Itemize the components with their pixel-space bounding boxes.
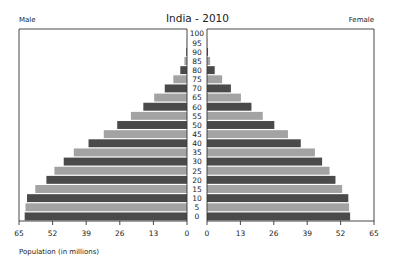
x-tick-label: 65	[14, 229, 24, 238]
male-bar-20	[46, 176, 187, 184]
female-bar-40	[207, 139, 301, 147]
age-tick-label: 45	[192, 130, 202, 139]
female-bar-15	[207, 185, 342, 193]
x-tick-label: 26	[115, 229, 125, 238]
female-bar-30	[207, 158, 322, 166]
female-bar-80	[207, 66, 215, 74]
x-tick-label: 52	[336, 229, 346, 238]
female-bar-35	[207, 148, 315, 156]
female-bar-55	[207, 112, 263, 120]
age-tick-label: 75	[192, 75, 202, 84]
age-tick-label: 30	[192, 157, 202, 166]
x-tick-label: 26	[269, 229, 279, 238]
male-bar-55	[131, 112, 187, 120]
female-bar-45	[207, 130, 288, 138]
female-bar-20	[207, 176, 335, 184]
age-labels: 0510152025303540455055606570758085909510…	[190, 29, 205, 221]
age-tick-label: 55	[192, 112, 202, 121]
age-tick-label: 95	[192, 39, 202, 48]
x-tick-label: 52	[48, 229, 58, 238]
female-bar-70	[207, 84, 231, 92]
age-tick-label: 90	[192, 48, 202, 57]
age-tick-label: 25	[192, 167, 202, 176]
male-bar-75	[173, 75, 187, 83]
male-bar-0	[25, 212, 187, 220]
age-tick-label: 20	[192, 176, 202, 185]
age-tick-label: 60	[192, 103, 202, 112]
male-bar-70	[165, 84, 187, 92]
x-tick-label: 13	[236, 229, 246, 238]
male-bar-35	[74, 148, 187, 156]
x-tick-label: 0	[185, 229, 190, 238]
male-bar-80	[180, 66, 187, 74]
age-tick-label: 50	[192, 121, 202, 130]
male-bars	[25, 39, 187, 221]
male-bar-40	[89, 139, 187, 147]
age-tick-label: 35	[192, 148, 202, 157]
female-bar-5	[207, 203, 349, 211]
male-bar-50	[117, 121, 187, 129]
male-bar-45	[104, 130, 187, 138]
male-bar-25	[54, 167, 187, 175]
age-tick-label: 70	[192, 84, 202, 93]
age-tick-label: 80	[192, 66, 202, 75]
age-tick-label: 100	[190, 29, 205, 38]
age-tick-label: 0	[195, 212, 200, 221]
age-tick-label: 10	[192, 194, 202, 203]
age-tick-label: 40	[192, 139, 202, 148]
x-tick-label: 0	[205, 229, 210, 238]
male-bar-10	[27, 194, 187, 202]
female-bar-85	[207, 57, 210, 65]
female-bar-10	[207, 194, 348, 202]
x-tick-label: 13	[149, 229, 159, 238]
male-bar-65	[154, 94, 187, 102]
male-bar-5	[25, 203, 187, 211]
female-bar-65	[207, 94, 241, 102]
age-tick-label: 65	[192, 93, 202, 102]
female-bar-75	[207, 75, 222, 83]
male-bar-60	[143, 103, 187, 111]
x-tick-label: 39	[81, 229, 91, 238]
female-bar-0	[207, 212, 350, 220]
x-tick-label: 65	[369, 229, 379, 238]
age-tick-label: 15	[192, 185, 202, 194]
age-tick-label: 5	[195, 203, 200, 212]
female-bars	[207, 39, 350, 221]
male-bar-15	[35, 185, 187, 193]
male-bar-30	[64, 158, 187, 166]
population-pyramid: 0510152025303540455055606570758085909510…	[0, 0, 395, 269]
age-tick-label: 85	[192, 57, 202, 66]
x-tick-label: 39	[302, 229, 312, 238]
female-bar-60	[207, 103, 251, 111]
female-bar-50	[207, 121, 274, 129]
female-bar-25	[207, 167, 330, 175]
